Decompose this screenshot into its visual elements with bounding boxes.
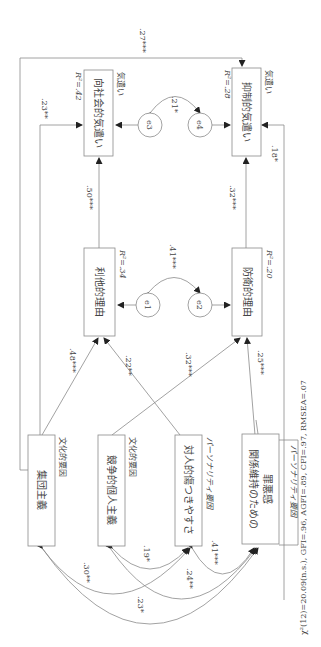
group-care-2: 気遣い [264, 70, 274, 94]
label-interpersonal-vulnerability: 対人的傷つきやすさ [183, 445, 195, 535]
coef-cov-individualism-guilt: .24** [185, 568, 194, 589]
label-e2: e2 [195, 300, 204, 310]
cov-e1-e2 [148, 278, 200, 294]
label-e1: e1 [143, 300, 152, 310]
coef-collectivism-prosocial: .23** [40, 98, 49, 119]
r2-altruistic: R²=.34 [118, 249, 127, 279]
label-guilt-line2: 罪悪感 [262, 474, 274, 504]
coef-collectivism-inhibitory: .27*** [138, 28, 147, 53]
label-defensive-reason: 防衛的理由 [242, 267, 254, 317]
coef-e3-e4: .21* [170, 96, 179, 113]
group-care-1: 気遣い [116, 72, 126, 96]
coef-cov-vulnerability-guilt: .41*** [210, 540, 219, 565]
path-individualism-to-defensive [112, 338, 240, 435]
group-personality-2: パーソナリティ要因 [289, 445, 298, 518]
coef-cov-collectivism-vulnerability: .30** [82, 562, 91, 583]
label-e4: e4 [195, 120, 204, 130]
coef-individualism-defensive: .32*** [184, 352, 193, 377]
path-collectivism-to-prosocial [40, 125, 82, 435]
personality-connector [256, 420, 258, 434]
label-competitive-individualism: 競争的個人主義 [106, 455, 118, 525]
cov-vulnerability-guilt [192, 548, 254, 574]
r2-inhibitory: R²=.28 [223, 69, 232, 99]
r2-defensive: R²=.20 [265, 249, 274, 279]
label-altruistic-reason: 利他的理由 [94, 267, 106, 317]
path-vulnerability-to-altruistic [104, 338, 180, 435]
label-inhibitory-care: 抑制的気遣い [241, 82, 253, 142]
r2-prosocial: R²=.42 [74, 71, 83, 101]
label-collectivism: 集団主義 [36, 470, 48, 510]
path-guilt-to-defensive [247, 338, 255, 435]
coef-e1-e2: .41*** [168, 244, 177, 269]
label-e3: e3 [145, 120, 154, 130]
group-culture-2: 文化的要因 [128, 437, 138, 477]
coef-guilt-defensive: .25*** [256, 350, 265, 375]
group-personality-1: パーソナリティ要因 [205, 437, 214, 510]
coef-cov-collectivism-guilt: .23* [136, 596, 145, 613]
coef-cov-individualism-vulnerability: .19* [142, 545, 151, 562]
label-guilt-line1: 関係維持のための [248, 449, 260, 529]
coef-defensive-inhibitory: .32*** [228, 185, 237, 210]
coef-altruistic-prosocial: .50*** [85, 185, 94, 210]
label-prosocial-care: 向社会的気遣い [93, 78, 105, 148]
coef-guilt-inhibitory: .18* [270, 145, 279, 162]
path-diagram: 向社会的気遣い 抑制的気遣い 利他的理由 防衛的理由 集団主義 競争的個人主義 … [0, 0, 321, 647]
coef-collectivism-altruistic: .48*** [68, 348, 77, 373]
cov-collectivism-vulnerability [42, 548, 190, 594]
group-culture-1: 文化的要因 [58, 437, 68, 477]
fit-indices: χ²(12)=20.09(n.s.), GFI=.96, AGFI=.89, C… [299, 380, 308, 635]
coef-vulnerability-altruistic: .22** [124, 355, 133, 376]
